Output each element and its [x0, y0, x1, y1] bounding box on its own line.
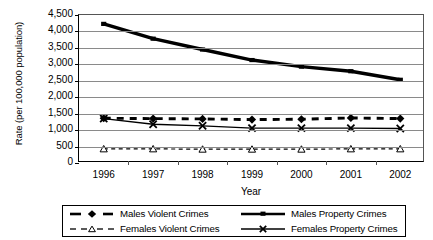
y-tick-mark: [75, 97, 79, 98]
y-tick-mark: [75, 31, 79, 32]
y-tick-mark: [75, 163, 79, 164]
data-point-marker: [348, 69, 353, 73]
legend-item-females-property: Females Property Crimes: [234, 221, 405, 236]
series-males-violent-crimes: [100, 114, 405, 124]
legend-key-thick-dashed-diamond: [69, 208, 115, 220]
y-tick-label: 3,500: [29, 41, 73, 52]
legend-key-thin-solid-x: [240, 223, 286, 235]
gridline: [79, 31, 423, 32]
legend-label: Females Property Crimes: [291, 223, 397, 234]
y-axis-title: Rate (per 100,000 population): [13, 9, 24, 159]
x-tick-label: 1998: [178, 169, 228, 180]
x-tick-mark: [326, 161, 327, 165]
y-tick-mark: [75, 114, 79, 115]
y-tick-label: 4,500: [29, 8, 73, 19]
gridline: [79, 97, 423, 98]
chart-legend: Males Violent Crimes Males Property Crim…: [62, 205, 406, 237]
x-tick-mark: [227, 161, 228, 165]
series-layer: [79, 15, 425, 163]
x-tick-mark: [376, 161, 377, 165]
legend-label: Males Property Crimes: [291, 208, 386, 219]
data-point-marker: [249, 58, 254, 62]
y-tick-mark: [75, 147, 79, 148]
legend-item-females-violent: Females Violent Crimes: [63, 221, 234, 236]
y-tick-mark: [75, 130, 79, 131]
y-tick-mark: [75, 64, 79, 65]
data-point-marker: [347, 114, 355, 122]
y-tick-mark: [75, 81, 79, 82]
gridline: [79, 114, 423, 115]
legend-label: Females Violent Crimes: [120, 223, 219, 234]
legend-item-males-property: Males Property Crimes: [234, 206, 405, 221]
y-tick-label: 0: [29, 156, 73, 167]
gridline: [79, 81, 423, 82]
gridline: [79, 64, 423, 65]
x-tick-label: 2000: [276, 169, 326, 180]
y-tick-mark: [75, 15, 79, 16]
x-tick-label: 2001: [326, 169, 376, 180]
data-point-marker: [396, 115, 404, 123]
line-chart: Rate (per 100,000 population) 05001,0001…: [0, 0, 433, 240]
legend-key-thin-dashed-triangle: [69, 223, 115, 235]
gridline: [79, 130, 423, 131]
x-tick-label: 1999: [227, 169, 277, 180]
y-tick-label: 1,500: [29, 107, 73, 118]
y-tick-label: 4,000: [29, 24, 73, 35]
legend-key-thick-solid-square: [240, 208, 286, 220]
legend-label: Males Violent Crimes: [120, 208, 208, 219]
x-tick-label: 2002: [375, 169, 425, 180]
data-point-marker: [248, 115, 256, 123]
x-axis-title: Year: [78, 186, 424, 197]
data-point-marker: [151, 37, 156, 41]
x-tick-mark: [128, 161, 129, 165]
y-tick-mark: [75, 48, 79, 49]
y-tick-label: 2,500: [29, 74, 73, 85]
legend-item-males-violent: Males Violent Crimes: [63, 206, 234, 221]
y-tick-label: 500: [29, 140, 73, 151]
x-tick-mark: [178, 161, 179, 165]
y-tick-label: 2,000: [29, 90, 73, 101]
data-point-marker: [297, 115, 305, 123]
data-point-marker: [101, 22, 106, 26]
x-tick-label: 1996: [79, 169, 129, 180]
y-tick-label: 1,000: [29, 123, 73, 134]
gridline: [79, 48, 423, 49]
x-tick-label: 1997: [128, 169, 178, 180]
y-tick-label: 3,000: [29, 57, 73, 68]
gridline: [79, 147, 423, 148]
x-tick-mark: [277, 161, 278, 165]
plot-area: 05001,0001,5002,0002,5003,0003,5004,0004…: [78, 14, 424, 162]
